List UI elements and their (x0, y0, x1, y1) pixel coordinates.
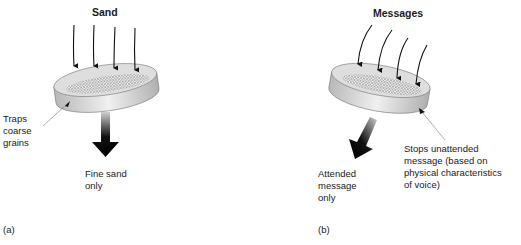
panel-b-label: (b) (318, 224, 330, 236)
stops-leader-line (422, 112, 445, 140)
panel-a-label: (a) (3, 224, 15, 236)
attended-message-only-label: Attended message only (318, 168, 357, 204)
attended-output-arrow (349, 117, 377, 159)
traps-coarse-grains-label: Traps coarse grains (3, 113, 32, 149)
fine-sand-output-arrow (92, 112, 119, 157)
traps-leader-line (43, 103, 68, 126)
sand-title: Sand (92, 6, 118, 18)
fine-sand-only-label: Fine sand only (85, 168, 127, 192)
stops-unattended-label: Stops unattended message (based on physi… (404, 143, 502, 191)
filter-diagram (0, 0, 521, 245)
sand-sieve (52, 58, 161, 118)
message-sieve (326, 57, 432, 120)
messages-title: Messages (373, 7, 423, 19)
